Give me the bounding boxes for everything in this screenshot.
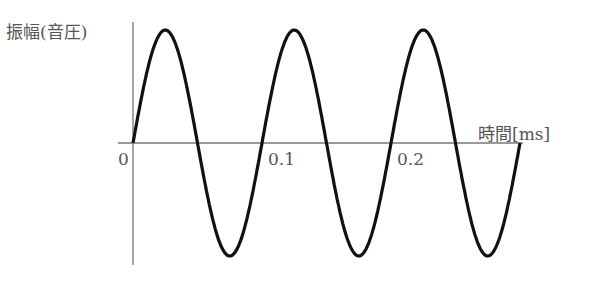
y-axis-label: 振幅(音圧) <box>6 18 87 43</box>
x-tick-0.2: 0.2 <box>397 149 424 169</box>
x-axis-label: 時間[ms] <box>478 120 550 145</box>
x-tick-0.1: 0.1 <box>268 149 295 169</box>
x-tick-0: 0 <box>118 149 129 169</box>
